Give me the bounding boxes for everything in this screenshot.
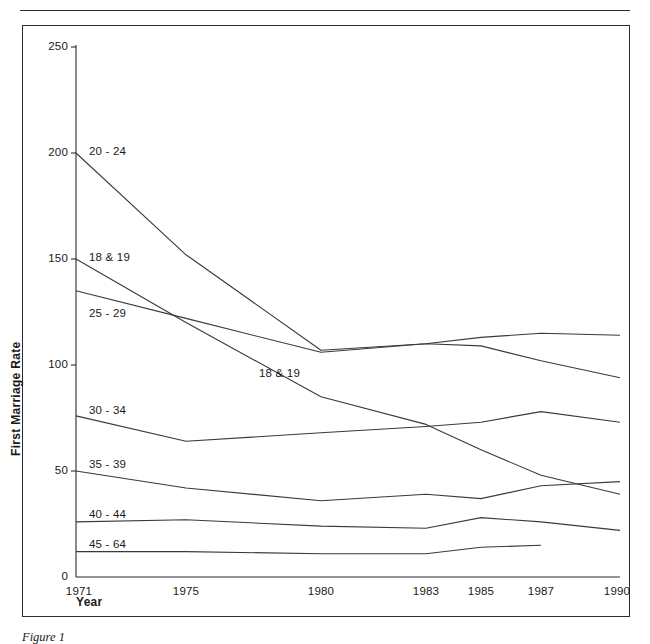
series-line-18-19 [76,259,620,494]
series-line-30-34 [76,412,620,442]
series-inline-label: 18 & 19 [89,251,130,263]
x-tick-label: 1983 [396,585,456,597]
series-inline-label: 25 - 29 [89,307,126,319]
y-tick-label: 0 [34,570,68,582]
series-line-25-29 [76,291,620,378]
series-line-35-39 [76,471,620,501]
series-line-40-44 [76,518,620,531]
x-axis-title: Year [76,595,103,609]
series-inline-label: 20 - 24 [89,145,126,157]
line-chart-svg [23,26,631,618]
series-line-20-24 [76,153,620,350]
series-line-45-64 [76,545,541,554]
x-tick-label: 1987 [511,585,571,597]
series-inline-label: 40 - 44 [89,508,126,520]
y-axis-title: First Marriage Rate [9,316,23,456]
x-tick-label: 1990 [587,585,647,597]
chart-axes [71,45,620,577]
figure-caption: Figure 1 [22,630,65,644]
x-tick-label: 1980 [291,585,351,597]
x-tick-label: 1985 [451,585,511,597]
chart-plot-area: 050100150200250 197119751980198319851987… [23,26,631,618]
chart-series-lines [76,153,620,554]
series-inline-label: 18 & 19 [259,367,300,379]
series-inline-label: 35 - 39 [89,458,126,470]
series-inline-label: 45 - 64 [89,538,126,550]
y-tick-label: 50 [34,464,68,476]
y-tick-label: 250 [34,40,68,52]
figure-frame: 050100150200250 197119751980198319851987… [22,25,630,617]
top-divider-rule [20,10,630,11]
y-tick-label: 200 [34,146,68,158]
series-inline-label: 30 - 34 [89,404,126,416]
x-tick-label: 1975 [156,585,216,597]
y-tick-label: 100 [34,358,68,370]
y-tick-label: 150 [34,252,68,264]
